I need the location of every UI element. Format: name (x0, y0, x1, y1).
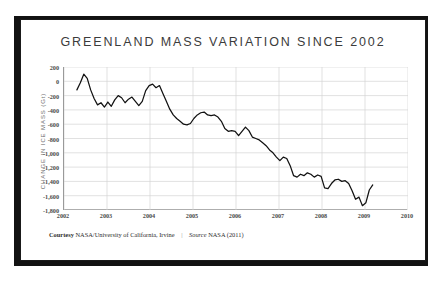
x-axis-tick-label: 2010 (401, 212, 413, 219)
y-axis-tick-label: -200 (21, 92, 59, 99)
x-axis-tick-labels: 200220032004200520062007200820092010 (63, 212, 407, 224)
source-label: Source (189, 231, 207, 238)
y-axis-tick-label: -1,200 (21, 164, 59, 171)
y-axis-tick-label: -400 (21, 106, 59, 113)
y-axis-tick-label: 0 (21, 78, 59, 85)
plot-area (63, 67, 407, 210)
x-axis-tick-label: 2002 (57, 212, 69, 219)
gridlines (64, 67, 408, 210)
y-axis-tick-label: -1,800 (21, 207, 59, 214)
y-axis-tick-labels: 2000-200-400-600-800-1,000-1,200-1,400-1… (21, 67, 59, 210)
credit-line: Courtesy NASA/University of California, … (49, 231, 244, 238)
x-axis-tick-label: 2008 (315, 212, 327, 219)
chart-plot-wrapper: CHANGE IN ICE MASS (Gt) 2000-200-400-600… (21, 20, 427, 262)
data-series-line (77, 74, 373, 206)
y-axis-tick-label: -1,400 (21, 178, 59, 185)
y-axis-tick-label: -800 (21, 135, 59, 142)
screenshot-root: GREENLAND MASS VARIATION SINCE 2002 CHAN… (0, 0, 441, 286)
courtesy-value: NASA/University of California, Irvine (75, 231, 174, 238)
x-axis-tick-label: 2005 (186, 212, 198, 219)
chart-canvas (64, 67, 408, 210)
x-axis-tick-label: 2007 (272, 212, 284, 219)
chart-card: GREENLAND MASS VARIATION SINCE 2002 CHAN… (20, 19, 426, 261)
x-axis-tick-label: 2009 (358, 212, 370, 219)
y-axis-tick-label: -600 (21, 121, 59, 128)
x-axis-tick-label: 2003 (100, 212, 112, 219)
x-axis-tick-label: 2006 (229, 212, 241, 219)
courtesy-label: Courtesy (49, 231, 74, 238)
y-axis-tick-label: -1,600 (21, 192, 59, 199)
credit-separator: | (176, 231, 187, 238)
y-axis-tick-label: -1,000 (21, 149, 59, 156)
source-value: NASA (2011) (208, 231, 243, 238)
y-axis-tick-label: 200 (21, 64, 59, 71)
x-axis-tick-label: 2004 (143, 212, 155, 219)
